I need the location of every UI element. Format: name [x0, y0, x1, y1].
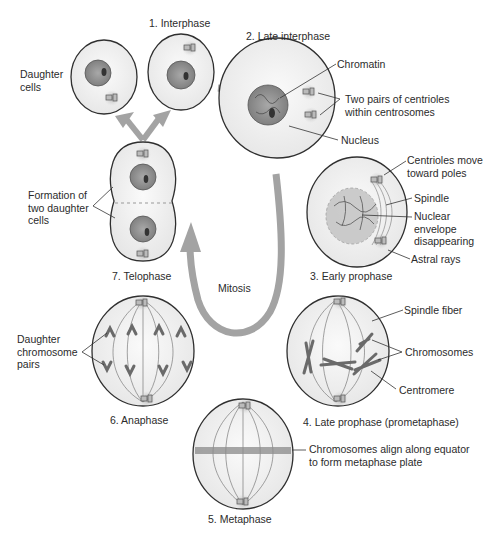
- label-chromosomes: Chromosomes: [405, 346, 473, 359]
- late-prophase-cell: [287, 294, 403, 407]
- interphase-cell: [148, 34, 214, 110]
- label-nuclear-envelope: Nuclear envelope disappearing: [414, 210, 494, 248]
- cycle-label-mitosis: Mitosis: [218, 282, 251, 295]
- label-spindle: Spindle: [414, 192, 449, 205]
- stage-label-metaphase: 5. Metaphase: [208, 513, 272, 526]
- label-nucleus: Nucleus: [341, 134, 379, 147]
- telophase-cell: [93, 142, 176, 262]
- early-prophase-cell: [307, 157, 412, 267]
- stage-label-early-prophase: 3. Early prophase: [310, 270, 392, 283]
- metaphase-cell: [193, 398, 306, 510]
- stage-label-late-prophase: 4. Late prophase (prometaphase): [303, 416, 459, 429]
- label-astral-rays: Astral rays: [411, 253, 461, 266]
- late-interphase-cell: [219, 38, 340, 158]
- label-chromatin: Chromatin: [337, 58, 385, 71]
- label-formation-daughter-cells: Formation of two daughter cells: [28, 189, 92, 227]
- stage-label-telophase: 7. Telophase: [112, 270, 171, 283]
- stage-label-late-interphase: 2. Late interphase: [246, 30, 330, 43]
- label-daughter-cells: Daughter cells: [20, 68, 80, 93]
- label-metaphase-plate: Chromosomes align along equator to form …: [309, 443, 474, 468]
- anaphase-cell: [82, 295, 194, 407]
- mitosis-loop-arrow: [190, 174, 281, 333]
- stage-label-anaphase: 6. Anaphase: [110, 414, 168, 427]
- label-centromere: Centromere: [399, 384, 454, 397]
- arrow-head-icon: [180, 222, 201, 252]
- stage-label-interphase: 1. Interphase: [149, 17, 210, 30]
- label-centrioles-move: Centrioles move toward poles: [407, 154, 487, 179]
- label-spindle-fiber: Spindle fiber: [404, 304, 462, 317]
- daughter-cell-left: [71, 40, 137, 114]
- label-centriole-pairs: Two pairs of centrioles within centrosom…: [345, 93, 465, 118]
- label-daughter-chromosome-pairs: Daughter chromosome pairs: [17, 333, 81, 371]
